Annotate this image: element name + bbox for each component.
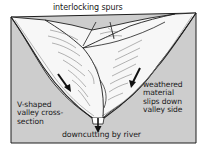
label-weathered-material: weathered material slips down valley sid…: [143, 81, 183, 115]
label-downcutting: downcutting by river: [62, 131, 141, 139]
label-interlocking-spurs: interlocking spurs: [53, 4, 123, 12]
label-v-shaped-valley: V-shaped valley cross- section: [17, 101, 63, 126]
